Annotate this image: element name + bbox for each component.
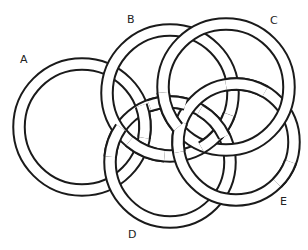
ring-e-over-segment [277, 162, 290, 183]
ring-label-c: C [270, 15, 278, 26]
ring-label-e: E [280, 196, 287, 207]
ring-label-b: B [127, 14, 135, 25]
ring-e-over-segment [226, 84, 265, 92]
rings-canvas [0, 0, 308, 250]
ring-label-d: D [128, 229, 136, 240]
interlocking-rings-diagram: A B C D E [0, 0, 308, 250]
ring-d-over-segment [110, 128, 121, 157]
ring-label-a: A [20, 54, 28, 65]
ring-a-over-segment [141, 105, 145, 137]
